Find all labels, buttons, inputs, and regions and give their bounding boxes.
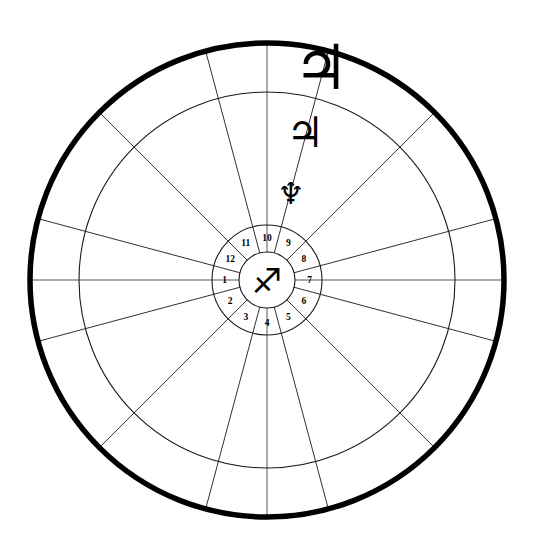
house-wheel-divider — [294, 266, 320, 273]
house-number-11: 11 — [241, 238, 250, 248]
house-number-9: 9 — [286, 238, 291, 248]
jupiter-inner-glyph: ♃ — [286, 108, 324, 157]
house-wheel-divider — [253, 307, 260, 333]
house-cusp-spoke — [320, 219, 496, 266]
house-wheel-divider — [294, 287, 320, 294]
house-cusp-spoke — [206, 51, 253, 227]
neptune-glyph: ♆ — [278, 176, 305, 211]
house-cusp-spoke — [281, 333, 328, 509]
house-cusp-spoke — [306, 319, 435, 448]
house-cusp-spoke — [99, 319, 228, 448]
house-cusp-spoke — [38, 294, 214, 341]
house-cusp-spoke — [206, 333, 253, 509]
house-wheel-divider — [274, 227, 281, 253]
house-number-6: 6 — [301, 296, 306, 306]
chart-wheel-svg: 123456789101112 ♐ ♃♃♆ — [0, 0, 534, 553]
jupiter-outer-glyph: ♃ — [293, 31, 349, 104]
house-cusp-spoke — [38, 219, 214, 266]
house-cusp-spoke — [306, 112, 435, 241]
astrology-chart-wheel: 123456789101112 ♐ ♃♃♆ — [0, 0, 534, 553]
house-wheel-divider — [253, 227, 260, 253]
house-number-4: 4 — [265, 318, 270, 328]
house-number-5: 5 — [286, 312, 291, 322]
planet-glyphs: ♃♃♆ — [278, 31, 349, 211]
sagittarius-glyph: ♐ — [252, 261, 282, 301]
house-number-2: 2 — [228, 296, 233, 306]
house-number-8: 8 — [301, 254, 306, 264]
house-wheel-divider — [214, 287, 240, 294]
house-number-3: 3 — [243, 312, 248, 322]
house-wheel-divider — [214, 266, 240, 273]
house-number-1: 1 — [222, 275, 227, 285]
house-number-7: 7 — [307, 275, 312, 285]
house-number-10: 10 — [262, 233, 272, 243]
house-cusp-spoke — [99, 112, 228, 241]
house-wheel-divider — [274, 307, 281, 333]
center-sign-glyph-group: ♐ — [252, 261, 282, 301]
house-cusp-spoke — [320, 294, 496, 341]
house-number-12: 12 — [225, 254, 235, 264]
